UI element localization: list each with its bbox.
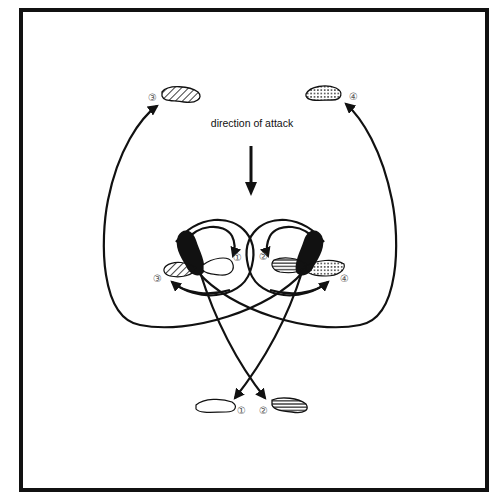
footwork-diagram: direction of attack — [0, 0, 492, 494]
outer-curves — [104, 104, 396, 327]
label-top-3: ③ — [148, 92, 157, 103]
back-step-lines — [200, 272, 302, 398]
bottom-foot-2-stripes — [272, 398, 307, 413]
label-center-2: ② — [259, 251, 268, 262]
label-center-4: ④ — [340, 273, 349, 284]
center-foot-1-plain — [203, 258, 233, 275]
label-bottom-2: ② — [259, 405, 268, 416]
center-side-arrows — [172, 282, 328, 293]
center-foot-3-hatch — [164, 262, 196, 276]
center-foot-4-dots — [306, 260, 344, 276]
top-foot-3-hatch — [162, 87, 200, 103]
direction-arrow-icon — [245, 146, 257, 196]
label-center-1: ① — [233, 252, 242, 263]
label-top-4: ④ — [349, 91, 358, 102]
label-bottom-1: ① — [237, 405, 246, 416]
top-foot-4-dots — [306, 86, 341, 100]
bottom-foot-1-plain — [196, 399, 235, 412]
label-center-3: ③ — [153, 273, 162, 284]
direction-label: direction of attack — [211, 117, 294, 129]
